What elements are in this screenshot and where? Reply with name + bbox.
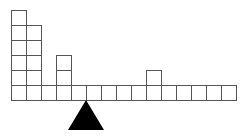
stack-cell <box>26 40 42 56</box>
beam-cell <box>116 85 132 101</box>
beam-cell <box>101 85 117 101</box>
stack-cell <box>26 70 42 86</box>
stack-cell <box>11 70 27 86</box>
stack-cell <box>56 55 72 71</box>
stack-cell <box>146 70 162 86</box>
beam-cell <box>86 85 102 101</box>
beam-cell <box>131 85 147 101</box>
beam-cell <box>41 85 57 101</box>
beam-cell <box>221 85 237 101</box>
balance-diagram <box>0 0 240 139</box>
fulcrum-triangle <box>68 100 104 130</box>
stack-cell <box>11 55 27 71</box>
beam-cell <box>26 85 42 101</box>
beam-cell <box>191 85 207 101</box>
beam-cell <box>56 85 72 101</box>
beam-cell <box>176 85 192 101</box>
beam-cell <box>161 85 177 101</box>
stack-cell <box>11 40 27 56</box>
beam-cell <box>71 85 87 101</box>
beam-cell <box>206 85 222 101</box>
stack-cell <box>26 25 42 41</box>
beam-cell <box>146 85 162 101</box>
stack-cell <box>26 55 42 71</box>
stack-cell <box>11 25 27 41</box>
stack-cell <box>11 10 27 26</box>
beam-cell <box>11 85 27 101</box>
stack-cell <box>56 70 72 86</box>
